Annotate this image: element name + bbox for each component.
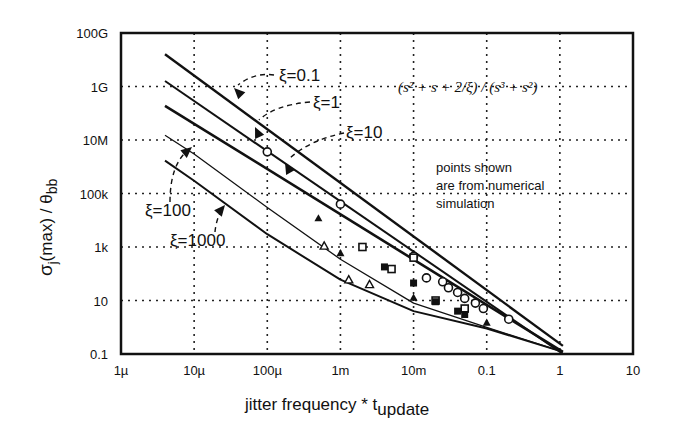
circle-marker	[471, 299, 479, 307]
y-tick-label: 100G	[76, 26, 108, 41]
x-tick-label: 10	[626, 363, 640, 378]
x-tick-label: 10m	[401, 363, 426, 378]
filled-square-marker	[381, 263, 388, 270]
x-axis-label: jitter frequency * tupdate	[244, 395, 429, 419]
curve-ξ=1	[165, 81, 563, 354]
grid-lines	[121, 33, 633, 354]
x-tick-label: 100µ	[253, 363, 283, 378]
y-tick-label: 10	[94, 294, 108, 309]
circle-marker	[505, 315, 513, 323]
circle-marker	[444, 284, 452, 292]
note-line-3: simulation	[436, 196, 495, 211]
y-tick-label: 10M	[83, 133, 108, 148]
y-axis-label: σj(max) / θbb	[35, 179, 60, 276]
filled-triangle-marker	[314, 214, 322, 221]
filled-square-marker	[454, 308, 461, 315]
x-tick-label: 0.1	[478, 363, 496, 378]
triangle-marker	[345, 276, 353, 283]
curve-ξ=0.1	[165, 54, 563, 346]
y-tick-label: 100k	[80, 187, 109, 202]
note-line-2: are from numerical	[436, 178, 544, 193]
label-xi-1: ξ=1	[313, 93, 340, 112]
filled-square-marker	[461, 311, 468, 318]
y-tick-label: 1G	[91, 80, 108, 95]
triangle-marker	[320, 242, 328, 249]
label-xi-100: ξ=100	[145, 201, 191, 220]
square-marker	[410, 254, 417, 261]
annotation-leader	[238, 74, 274, 85]
x-tick-label: 1m	[331, 363, 349, 378]
circle-marker	[461, 294, 469, 302]
x-tick-label: 1µ	[114, 363, 129, 378]
filled-square-marker	[410, 280, 417, 287]
curve-ξ=10	[165, 106, 563, 352]
circle-marker	[336, 200, 344, 208]
note-line-1: points shown	[436, 160, 512, 175]
arrowhead-icon	[230, 84, 245, 99]
y-axis-ticks: 100G1G10M100k1k100.1	[76, 26, 108, 362]
filled-triangle-marker	[336, 249, 344, 256]
circle-marker	[454, 288, 462, 296]
triangle-marker	[366, 280, 374, 287]
filled-square-marker	[432, 298, 439, 305]
circle-marker	[422, 274, 430, 282]
square-marker	[388, 266, 395, 273]
transfer-function-formula: (s² + s + 2/ξ) / (s³ + s²)	[398, 79, 537, 96]
x-tick-label: 1	[556, 363, 563, 378]
arrowhead-icon	[250, 125, 264, 139]
label-xi-0.1: ξ=0.1	[279, 66, 320, 85]
label-xi-1000: ξ=1000	[170, 231, 225, 250]
circle-marker	[263, 148, 271, 156]
theory-curves	[165, 54, 563, 354]
x-tick-label: 10µ	[183, 363, 205, 378]
filled-triangle-marker	[410, 293, 418, 300]
x-axis-ticks: 1µ10µ100µ1m10m0.1110	[114, 363, 641, 378]
square-marker	[359, 244, 366, 251]
circle-marker	[479, 305, 487, 313]
annotation-leader	[290, 133, 344, 158]
y-tick-label: 1k	[94, 240, 108, 255]
filled-triangle-marker	[483, 319, 491, 326]
chart: 100G1G10M100k1k100.1 1µ10µ100µ1m10m0.111…	[0, 0, 674, 429]
y-tick-label: 0.1	[90, 347, 108, 362]
label-xi-10: ξ=10	[346, 123, 382, 142]
